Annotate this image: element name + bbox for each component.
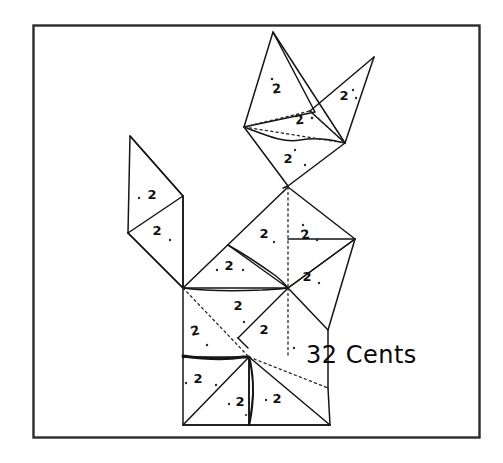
page-footer bbox=[60, 452, 460, 462]
piece-label-shoulder-triangle: 2 bbox=[299, 226, 311, 242]
worksheet-page: 2 2 2 2 2 2 2 2 2 2 2 2 2 2 2 2 bbox=[0, 0, 503, 463]
piece-label-hind-square: 2 bbox=[193, 371, 202, 386]
piece-label-foot-right-triangle: 2 bbox=[272, 391, 281, 406]
tangram-drawing: 2 2 2 2 2 2 2 2 2 2 2 2 2 2 2 2 bbox=[0, 0, 503, 463]
piece-label-head-lower-triangle: 2 bbox=[283, 151, 292, 166]
piece-label-body-left-triangle: 2 bbox=[189, 322, 201, 339]
piece-label-haunch-triangle: 2 bbox=[259, 322, 268, 337]
piece-label-ear-right-triangle: 2 bbox=[339, 88, 348, 103]
piece-label-back-triangle: 2 bbox=[259, 226, 268, 241]
piece-label-tail-lower-triangle: 2 bbox=[152, 223, 161, 238]
total-value-caption: 32 Cents bbox=[306, 341, 417, 369]
piece-label-foot-left-triangle: 2 bbox=[235, 394, 244, 409]
piece-label-tail-upper-triangle: 2 bbox=[147, 187, 156, 202]
piece-label-body-center-triangle: 2 bbox=[233, 298, 242, 313]
piece-label-front-leg-triangle: 2 bbox=[302, 269, 311, 284]
piece-label-chest-triangle: 2 bbox=[224, 258, 233, 273]
piece-label-head-left-triangle: 2 bbox=[271, 81, 281, 97]
